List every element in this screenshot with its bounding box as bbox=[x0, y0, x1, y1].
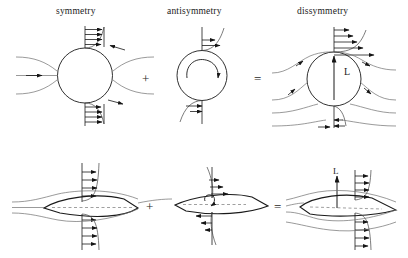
airfoil-body bbox=[175, 195, 268, 214]
figure-canvas bbox=[0, 0, 408, 258]
panel-bottom-antisymmetry bbox=[175, 167, 268, 245]
airfoil-body bbox=[44, 196, 138, 216]
cylinder-body bbox=[177, 51, 227, 101]
airfoil-body bbox=[300, 195, 396, 216]
flow-decomposition-figure: symmetry antisymmetry dissymmetry + = + … bbox=[0, 0, 408, 258]
panel-top-dissymmetry bbox=[272, 27, 396, 128]
cylinder-body bbox=[58, 48, 113, 103]
circulation-arrow bbox=[187, 60, 218, 78]
panel-top-antisymmetry bbox=[177, 27, 227, 124]
chord-line bbox=[310, 207, 382, 209]
panel-top-symmetry bbox=[16, 26, 154, 126]
panel-bottom-symmetry bbox=[12, 163, 172, 250]
panel-bottom-dissymmetry bbox=[286, 170, 396, 250]
